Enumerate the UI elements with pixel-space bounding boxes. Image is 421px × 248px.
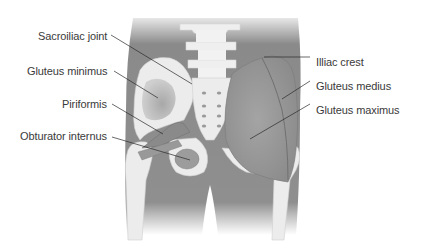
label-piriformis: Piriformis bbox=[62, 98, 107, 110]
label-gluteus-maximus: Gluteus maximus bbox=[316, 104, 399, 116]
label-gluteus-minimus: Gluteus minimus bbox=[27, 65, 107, 77]
label-obturator-internus: Obturator internus bbox=[20, 130, 107, 142]
label-sacroiliac-joint: Sacroiliac joint bbox=[38, 30, 107, 42]
label-gluteus-medius: Gluteus medius bbox=[316, 80, 391, 92]
label-illiac-crest: Illiac crest bbox=[316, 56, 364, 68]
